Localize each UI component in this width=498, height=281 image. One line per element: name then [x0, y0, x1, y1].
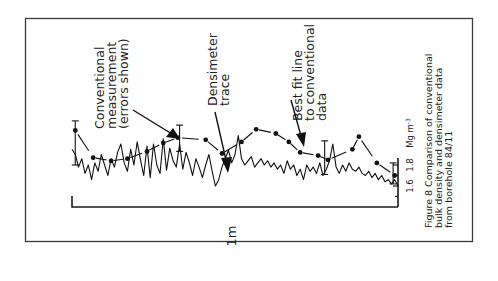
best-fit-segment [96, 158, 107, 160]
conventional-point [350, 147, 355, 152]
best-fit-segment [208, 142, 218, 150]
y-ticks: 1.61.8 [393, 158, 415, 196]
best-fit-segment [362, 141, 373, 157]
best-fit-segment [244, 133, 253, 141]
conventional-point [145, 149, 150, 154]
annotation-conventional: Conventional measurement (errors shown) [92, 38, 180, 139]
arrowhead-icon [166, 128, 180, 139]
conventional-point [109, 158, 114, 163]
error-bars [72, 121, 397, 184]
best-fit-segment [259, 130, 271, 133]
best-fit-segment [78, 134, 89, 150]
conventional-point [203, 137, 208, 142]
best-fit-segment [278, 135, 286, 140]
conventional-point [326, 157, 331, 162]
densimeter-trace [72, 136, 398, 186]
best-fit-segment [166, 139, 175, 142]
conventional-point [73, 128, 78, 133]
plot-area: 1.61.8 [72, 121, 415, 207]
best-fit-segment [225, 145, 237, 152]
annotation-densimeter-line-2: trace [217, 73, 232, 106]
best-fit-segment [182, 138, 199, 139]
conventional-point [125, 156, 130, 161]
annotation-conventional-line-3: (errors shown) [116, 38, 131, 129]
best-fit-segment [353, 140, 357, 148]
y-tick-label: 1.6 [405, 179, 415, 193]
best-fit-segment [380, 165, 391, 173]
caption-line-3: from borehole 84/11 [443, 131, 454, 228]
x-scale-bar [72, 196, 398, 207]
annotation-bestfit: Best fit line to conventional data [290, 24, 329, 147]
best-fit-segment [114, 159, 124, 160]
annotation-conventional-arrow [133, 110, 172, 134]
annotation-bestfit-line-3: data [314, 93, 329, 121]
best-fit-segment [291, 144, 298, 150]
conventional-point [316, 153, 321, 158]
figure: 1.61.8 1m Mg m-3 Conventional measuremen… [0, 0, 498, 281]
conventional-point [254, 127, 259, 132]
y-tick-label: 1.8 [405, 158, 415, 172]
conventional-point [273, 131, 278, 136]
conventional-point [161, 141, 166, 146]
arrowhead-icon [296, 132, 306, 147]
conventional-point [286, 140, 291, 145]
x-scale-label: 1m [224, 226, 239, 247]
figure-caption: Figure 8 Comparison of conventional bulk… [423, 54, 454, 228]
conventional-point [91, 155, 96, 160]
conventional-point [392, 173, 397, 178]
conventional-point [298, 150, 303, 155]
best-fit-segment [303, 153, 314, 155]
densimeter-trace-line [72, 136, 398, 186]
conventional-point [357, 134, 362, 139]
y-units-label: Mg m-3 [404, 118, 415, 148]
conventional-point [374, 161, 379, 166]
conventional-point [239, 140, 244, 145]
